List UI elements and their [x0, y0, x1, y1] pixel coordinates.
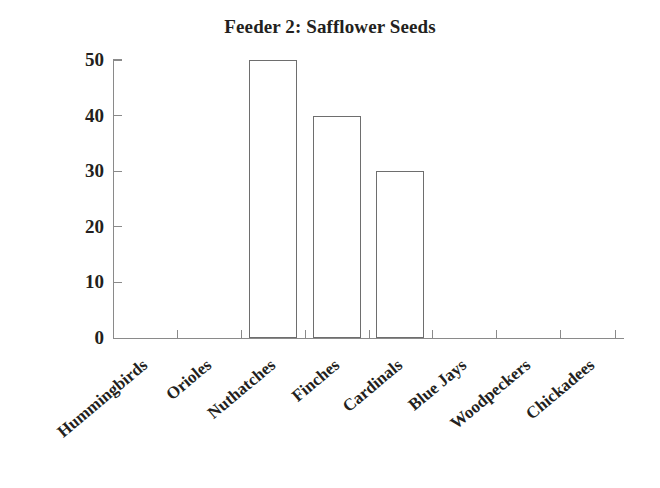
x-axis-right-cap	[615, 330, 616, 339]
chart-title: Feeder 2: Safflower Seeds	[0, 16, 660, 38]
bar-cardinals	[376, 171, 424, 338]
y-axis-tick-label: 30	[58, 161, 104, 180]
y-axis-tick-label: 0	[58, 328, 104, 347]
y-axis-tick	[113, 60, 122, 61]
x-axis-tick	[560, 330, 561, 339]
y-axis-tick	[113, 171, 122, 172]
y-axis-tick	[113, 226, 122, 227]
bar-chart: Feeder 2: Safflower Seeds 01020304050 Hu…	[0, 0, 660, 488]
x-axis-tick	[496, 330, 497, 339]
y-axis-tick	[113, 282, 122, 283]
y-axis-tick-label: 40	[58, 106, 104, 125]
bar-finches	[313, 116, 361, 338]
bar-nuthatches	[249, 60, 297, 338]
y-axis-tick	[113, 338, 122, 339]
x-axis-tick	[241, 330, 242, 339]
y-axis-tick-label: 20	[58, 217, 104, 236]
x-axis-tick	[369, 330, 370, 339]
y-axis-tick-label: 10	[58, 272, 104, 291]
y-axis-tick-label: 50	[58, 50, 104, 69]
y-axis-tick	[113, 115, 122, 116]
y-axis-line	[113, 59, 114, 339]
x-axis-tick	[177, 330, 178, 339]
x-axis-tick	[305, 330, 306, 339]
x-axis-tick	[432, 330, 433, 339]
